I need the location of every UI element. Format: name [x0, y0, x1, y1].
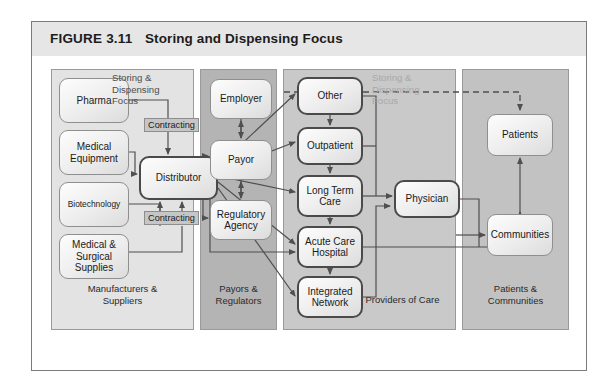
node-employer[interactable]: Employer: [210, 79, 272, 119]
node-medical-equipment[interactable]: Medical Equipment: [59, 130, 129, 175]
figure-frame: FIGURE 3.11 Storing and Dispensing Focus…: [31, 21, 587, 371]
lane-manufacturers-label: Manufacturers & Suppliers: [52, 283, 193, 306]
figure-title-bar: FIGURE 3.11 Storing and Dispensing Focus: [32, 22, 586, 56]
annotation-storing-dispensing-focus-right: Storing & Dispensing Focus: [372, 72, 419, 107]
node-distributor[interactable]: Distributor: [139, 156, 218, 200]
node-integrated-network[interactable]: Integrated Network: [297, 276, 363, 318]
node-medical-surgical-supplies[interactable]: Medical & Surgical Supplies: [59, 234, 129, 279]
node-other[interactable]: Other: [297, 77, 363, 115]
node-acute-care-hospital[interactable]: Acute Care Hospital: [297, 226, 363, 268]
node-regulatory-agency[interactable]: Regulatory Agency: [210, 200, 272, 240]
node-biotechnology[interactable]: Biotechnology: [59, 182, 129, 227]
node-payor[interactable]: Payor: [210, 140, 272, 180]
node-outpatient[interactable]: Outpatient: [297, 127, 363, 165]
diagram-canvas: Manufacturers & Suppliers Payors & Regul…: [32, 56, 588, 372]
lane-payors-label: Payors & Regulators: [201, 283, 276, 306]
figure-number: FIGURE 3.11: [50, 31, 132, 46]
lane-providers-label: Providers of Care: [348, 294, 457, 306]
lane-patients: Patients & Communities: [462, 69, 569, 330]
node-physician[interactable]: Physician: [394, 180, 460, 218]
node-communities[interactable]: Communities: [487, 214, 553, 256]
figure-title: Storing and Dispensing Focus: [145, 31, 343, 46]
lane-patients-label: Patients & Communities: [463, 283, 568, 306]
node-patients[interactable]: Patients: [487, 114, 553, 156]
node-long-term-care[interactable]: Long Term Care: [297, 175, 363, 217]
chip-contracting-lower: Contracting: [144, 211, 199, 225]
chip-contracting-upper: Contracting: [144, 118, 199, 132]
annotation-storing-dispensing-focus-left: Storing & Dispensing Focus: [112, 72, 159, 107]
